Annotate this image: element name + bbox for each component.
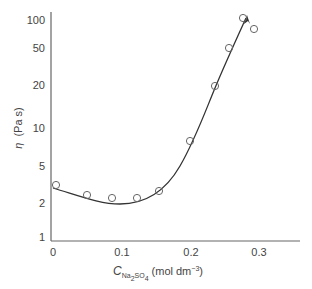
y-tick-10: 10: [33, 122, 45, 134]
fit-curve: [53, 18, 246, 204]
svg-text:CNa2SO4(mol dm−3): CNa2SO4(mol dm−3): [113, 264, 203, 282]
y-axis-label: η (Pa s): [12, 107, 24, 149]
x-axis-label: CNa2SO4(mol dm−3): [113, 264, 203, 282]
x-tick-0.3: 0.3: [251, 246, 266, 258]
y-tick-labels: 100 50 20 10 5 2 1: [27, 14, 45, 243]
data-point: [52, 181, 59, 188]
data-point: [225, 44, 232, 51]
data-point: [108, 194, 115, 201]
y-tick-100: 100: [27, 14, 45, 26]
y-tick-5: 5: [39, 160, 45, 172]
x-tick-labels: 0 0.1 0.2 0.3: [50, 246, 267, 258]
data-point: [250, 25, 257, 32]
y-tick-20: 20: [33, 79, 45, 91]
y-tick-1: 1: [39, 231, 45, 243]
data-point: [83, 191, 90, 198]
svg-text:η (Pa s): η (Pa s): [12, 107, 24, 149]
y-tick-2: 2: [39, 197, 45, 209]
x-tick-0.1: 0.1: [114, 246, 129, 258]
x-tick-0: 0: [50, 246, 56, 258]
chart: 100 50 20 10 5 2 1 0 0.1 0.2 0.3 η (Pa s…: [0, 0, 312, 289]
y-tick-50: 50: [33, 42, 45, 54]
data-point: [133, 194, 140, 201]
data-points: [52, 14, 257, 201]
x-tick-0.2: 0.2: [183, 246, 198, 258]
